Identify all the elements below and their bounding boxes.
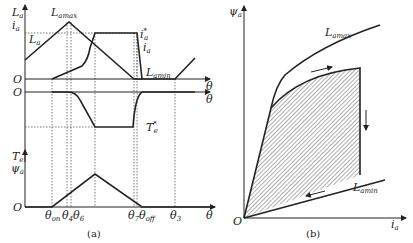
label-La: La (28, 33, 41, 47)
caption-b: (b) (306, 228, 320, 239)
y-label-ia: ia (12, 19, 20, 33)
caption-a: (a) (87, 228, 101, 239)
x-label-ia-b: ia (391, 218, 399, 232)
label-ia: ia (143, 41, 151, 55)
flux-curve (25, 174, 215, 207)
tick-theta-off: θoff (139, 209, 156, 223)
tick-theta-on: θon (45, 209, 61, 223)
label-Te-ref: T*e (146, 120, 158, 135)
y-label-La: La (11, 6, 24, 20)
tick-theta-7: θ7 (128, 209, 140, 223)
label-ia-ref: i*a (140, 27, 148, 42)
label-Lamax-b: Lamax (324, 26, 351, 40)
panel-b: ψa Lamax Lamin O ia (b) (229, 5, 406, 239)
label-Lamin: Lamin (145, 66, 171, 80)
tick-theta-6: θ6 (73, 209, 85, 223)
panel-a: La ia Lamax La i*a ia Lamin O θ O θ T*e … (11, 5, 215, 239)
label-Lamax: Lamax (50, 6, 77, 20)
inductance-curve (25, 22, 195, 79)
plot2-origin: O (13, 86, 22, 99)
plot1-origin: O (13, 73, 22, 86)
origin-b: O (233, 215, 242, 228)
figure-canvas: La ia Lamax La i*a ia Lamin O θ O θ T*e … (0, 0, 413, 243)
y-label-psi-b: ψa (229, 5, 242, 19)
current-curve (52, 33, 142, 79)
tick-theta-3: θ3 (170, 209, 182, 223)
tick-theta-4: θ4 (62, 209, 73, 223)
y-label-psi: ψa (11, 162, 24, 176)
plot3-x-label: θ (206, 209, 213, 222)
torque-curve (52, 92, 195, 127)
plot1-x-label: θ (206, 80, 213, 93)
plot3-origin: O (13, 201, 22, 214)
arrow-right-icon (311, 67, 332, 72)
energy-loop-hatch (244, 68, 360, 218)
plot2-x-label: θ (206, 93, 213, 106)
